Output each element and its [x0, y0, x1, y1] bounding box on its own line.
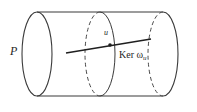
bundle-label: P — [10, 45, 17, 57]
fiber-ellipse-back-arc — [85, 12, 100, 96]
figure-canvas: P u Ker ωu — [0, 0, 197, 112]
kernel-subscript-text: u — [143, 54, 147, 62]
right-face-ellipse-front-arc — [163, 12, 178, 96]
right-face-ellipse-back-arc — [148, 12, 163, 96]
point-u-marker — [108, 43, 112, 47]
cylinder-diagram — [0, 0, 197, 112]
left-face-ellipse — [22, 12, 52, 96]
fiber-ellipse-front-arc — [100, 12, 115, 96]
kernel-prefix-text: Ker — [119, 49, 137, 60]
kernel-label: Ker ωu — [119, 50, 147, 62]
point-u-label: u — [104, 29, 108, 37]
